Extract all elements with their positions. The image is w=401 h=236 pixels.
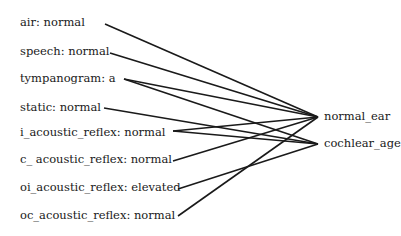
output-label-normal-ear: normal_ear — [324, 109, 390, 123]
input-label-oi-acoustic-reflex: oi_acoustic_reflex: elevated — [20, 180, 181, 194]
input-label-tympanogram: tympanogram: a — [20, 71, 116, 85]
input-label-static: static: normal — [20, 100, 101, 114]
input-label-c-acoustic-reflex: c_ acoustic_reflex: normal — [20, 152, 172, 166]
edge-line — [105, 24, 318, 117]
output-label-cochlear-age: cochlear_age — [324, 136, 401, 150]
input-label-oc-acoustic-reflex: oc_acoustic_reflex: normal — [20, 208, 175, 222]
input-label-speech: speech: normal — [20, 44, 110, 58]
input-label-i-acoustic-reflex: i_acoustic_reflex: normal — [20, 125, 166, 139]
input-label-air: air: normal — [20, 15, 85, 29]
